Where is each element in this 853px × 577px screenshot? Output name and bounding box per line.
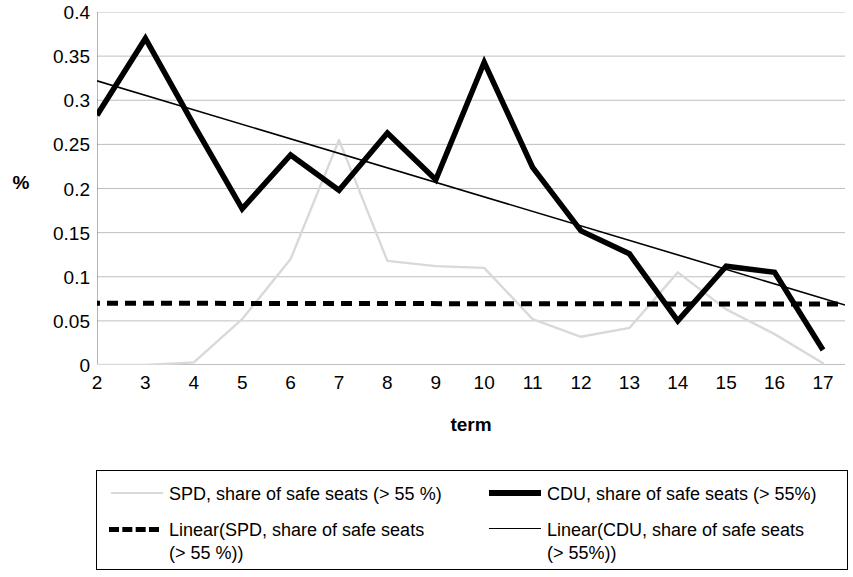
plot-canvas — [97, 12, 845, 365]
chart-legend: SPD, share of safe seats (> 55 %)CDU, sh… — [96, 470, 848, 570]
y-tick-label: 0.2 — [64, 180, 90, 199]
x-axis-tick-labels: 234567891011121314151617 — [97, 372, 845, 400]
x-tick-label: 4 — [189, 372, 200, 394]
x-tick-label: 3 — [140, 372, 151, 394]
x-tick-label: 11 — [523, 372, 543, 394]
x-tick-label: 12 — [570, 372, 591, 394]
legend-entry: SPD, share of safe seats (> 55 %) — [109, 483, 479, 506]
cdu-line-marker — [487, 483, 543, 503]
plot-area — [97, 12, 845, 365]
legend-label: Linear(SPD, share of safe seats (> 55 %)… — [169, 519, 424, 565]
y-tick-label: 0.4 — [64, 3, 90, 22]
x-tick-label: 15 — [716, 372, 737, 394]
x-tick-label: 17 — [812, 372, 833, 394]
x-tick-label: 2 — [92, 372, 103, 394]
trendline-cdu — [97, 81, 845, 305]
y-axis-tick-labels: 0.40.350.30.250.20.150.10.050 — [38, 0, 94, 380]
legend-entry: CDU, share of safe seats (> 55%) — [487, 483, 845, 506]
legend-entry: Linear(SPD, share of safe seats (> 55 %)… — [109, 519, 479, 565]
y-tick-label: 0 — [79, 356, 90, 375]
data-series-layer — [97, 38, 845, 365]
x-tick-label: 6 — [285, 372, 296, 394]
x-tick-label: 9 — [431, 372, 442, 394]
x-tick-label: 7 — [334, 372, 345, 394]
x-tick-label: 14 — [667, 372, 688, 394]
x-tick-label: 8 — [382, 372, 393, 394]
y-tick-label: 0.05 — [53, 312, 90, 331]
spd-trend-marker — [109, 519, 165, 539]
x-tick-label: 13 — [619, 372, 640, 394]
y-tick-label: 0.1 — [64, 268, 90, 287]
spd-line-marker — [109, 483, 165, 503]
x-tick-label: 5 — [237, 372, 248, 394]
series-line-spd — [97, 140, 823, 365]
x-axis-title: term — [97, 414, 845, 436]
y-tick-label: 0.35 — [53, 47, 90, 66]
legend-label: CDU, share of safe seats (> 55%) — [547, 483, 817, 506]
x-tick-label: 16 — [764, 372, 785, 394]
y-axis-title: % — [4, 172, 38, 194]
y-tick-label: 0.25 — [53, 135, 90, 154]
y-tick-label: 0.3 — [64, 91, 90, 110]
chart-figure: % 0.40.350.30.250.20.150.10.050 23456789… — [0, 0, 853, 577]
trendline-spd — [97, 303, 845, 304]
cdu-trend-marker — [487, 519, 543, 539]
x-tick-label: 10 — [474, 372, 495, 394]
y-tick-label: 0.15 — [53, 224, 90, 243]
legend-label: Linear(CDU, share of safe seats (> 55%)) — [547, 519, 804, 565]
legend-label: SPD, share of safe seats (> 55 %) — [169, 483, 442, 506]
legend-entry: Linear(CDU, share of safe seats (> 55%)) — [487, 519, 845, 565]
legend-entries: SPD, share of safe seats (> 55 %)CDU, sh… — [97, 471, 847, 569]
